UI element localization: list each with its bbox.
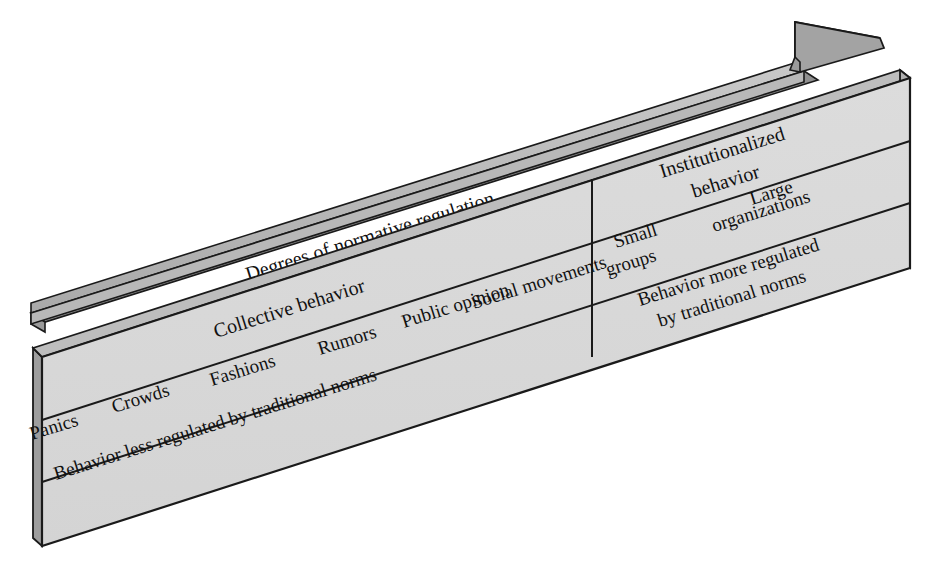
panel-left-side-face [33,348,42,546]
normative-regulation-diagram: Degrees of normative regulation Collecti [0,0,925,578]
arrow-head-shadow-face [795,22,884,72]
diagram-canvas: Degrees of normative regulation Collecti [0,0,925,578]
